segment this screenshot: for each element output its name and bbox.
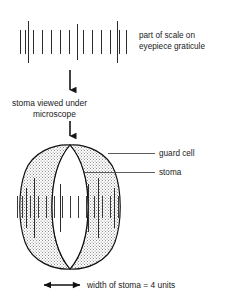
figure-root: part of scale on eyepiece graticule stom… — [0, 0, 231, 299]
microscope-caption-line2: microscope — [33, 109, 76, 119]
stoma-graticule-diagram: part of scale on eyepiece graticule stom… — [0, 0, 231, 299]
microscope-caption-line1: stoma viewed under — [12, 98, 87, 108]
measurement-caption: width of stoma = 4 units — [86, 280, 175, 290]
stoma-drawing — [18, 145, 121, 269]
graticule-caption-line2: eyepiece graticule — [139, 42, 205, 51]
label-stoma: stoma — [159, 168, 182, 177]
graticule-caption-line1: part of scale on — [139, 31, 195, 40]
label-guard-cell: guard cell — [159, 149, 195, 158]
